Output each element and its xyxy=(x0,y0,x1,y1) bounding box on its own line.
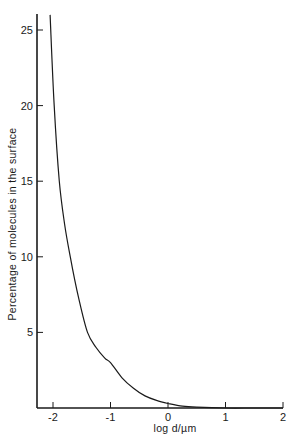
axes xyxy=(37,14,283,408)
x-tick-label: -2 xyxy=(48,411,58,423)
y-tick-label: 25 xyxy=(21,24,33,36)
y-tick-label: 15 xyxy=(21,175,33,187)
x-tick-label: 2 xyxy=(280,411,286,423)
x-axis-label: log d/µm xyxy=(154,422,197,434)
y-tick-label: 10 xyxy=(21,251,33,263)
y-axis-label: Percentage of molecules in the surface xyxy=(6,128,18,321)
axis-ticks: -2-1012510152025 xyxy=(21,24,286,423)
y-tick-label: 20 xyxy=(21,100,33,112)
data-curve xyxy=(50,15,283,408)
x-tick-label: -1 xyxy=(106,411,116,423)
y-tick-label: 5 xyxy=(27,326,33,338)
x-tick-label: 1 xyxy=(222,411,228,423)
chart: -2-1012510152025 log d/µm Percentage of … xyxy=(0,0,306,441)
